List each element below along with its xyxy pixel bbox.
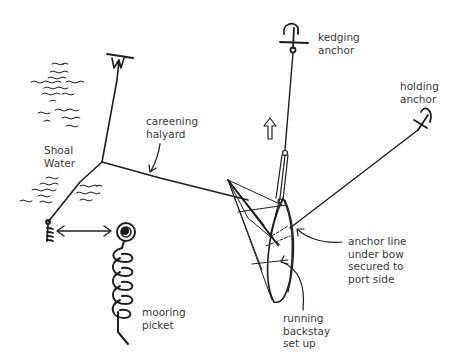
label-careening-halyard: careening halyard (146, 115, 198, 140)
label-anchor-line: anchor line under bow secured to port si… (348, 235, 407, 285)
shoal-water-waves-upper (31, 63, 84, 127)
careening-halyard-line (102, 162, 248, 200)
label-running-backstay: running backstay set up (283, 312, 330, 350)
label-shoal-water: Shoal Water (44, 144, 75, 169)
anchor-line-pointer-arrow (297, 229, 342, 242)
up-arrow-icon (264, 118, 276, 139)
label-kedging-anchor: kedging anchor (318, 31, 360, 56)
shore-anchor-line (102, 60, 119, 162)
shoal-water-waves-lower (20, 177, 102, 203)
junction-to-picket-line (48, 162, 102, 222)
careening-diagram (0, 0, 451, 363)
kedging-anchor-icon (280, 24, 308, 53)
mast-rigging (228, 180, 290, 300)
shore-screw-icon (46, 220, 53, 241)
halyard-pointer-arrow (149, 144, 160, 172)
label-holding-anchor: holding anchor (400, 80, 439, 105)
tackle-block (276, 151, 288, 204)
shore-anchor-icon (107, 54, 133, 68)
boat-hull-icon (268, 198, 294, 302)
holding-anchor-line (290, 130, 418, 228)
kedging-anchor-line (285, 53, 293, 150)
holding-anchor-icon (414, 108, 431, 130)
label-mooring-picket: mooring picket (142, 306, 186, 331)
double-arrow-icon (57, 226, 111, 236)
mooring-picket-icon (113, 223, 135, 344)
